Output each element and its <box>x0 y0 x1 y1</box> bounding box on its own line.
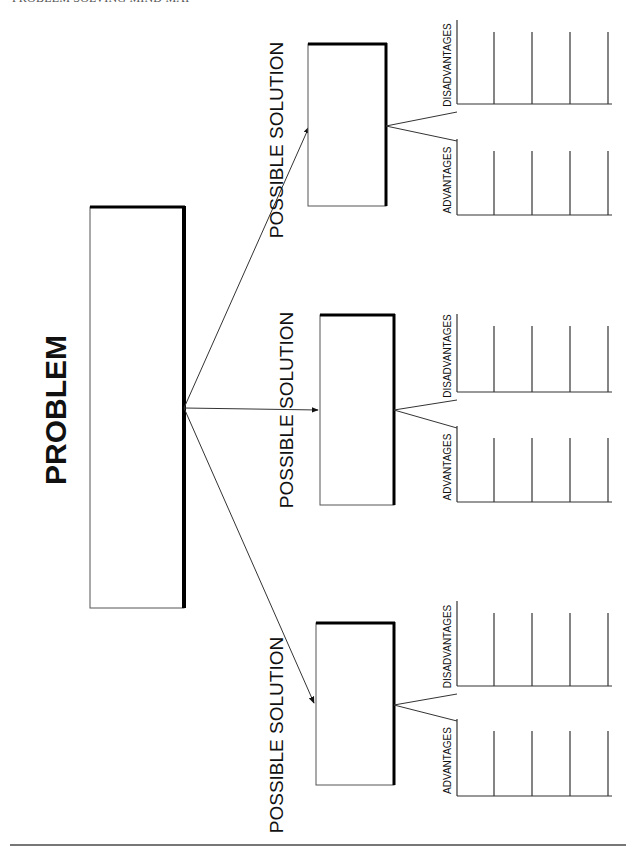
advantages-section: ADVANTAGES <box>442 139 612 215</box>
mind-map: PROBLEM POSSIBLE SOLUTIONDISADVANTAGESAD… <box>0 0 640 849</box>
solution-box-outline <box>308 44 386 206</box>
branch-line-disadvantages <box>394 400 457 410</box>
disadvantages-section: DISADVANTAGES <box>442 314 612 398</box>
branch-line-advantages <box>394 705 457 721</box>
solution-box[interactable] <box>320 314 395 505</box>
problem-label: PROBLEM <box>39 335 72 485</box>
advantages-section: ADVANTAGES <box>442 719 612 796</box>
advantages-label: ADVANTAGES <box>442 727 453 794</box>
advantages-section: ADVANTAGES <box>442 426 612 502</box>
disadvantages-label: DISADVANTAGES <box>442 314 453 398</box>
solution-box-outline <box>316 623 394 785</box>
disadvantages-section: DISADVANTAGES <box>442 601 612 688</box>
branch-line-disadvantages <box>386 112 457 126</box>
advantages-label: ADVANTAGES <box>442 146 453 213</box>
solution-box[interactable] <box>316 622 395 785</box>
branch-line-advantages <box>386 126 457 141</box>
problem-box[interactable] <box>90 206 185 608</box>
solution-box-outline <box>320 315 394 505</box>
solution-cluster-1: POSSIBLE SOLUTIONDISADVANTAGESADVANTAGES <box>266 20 612 238</box>
advantages-label: ADVANTAGES <box>442 433 453 500</box>
disadvantages-label: DISADVANTAGES <box>442 604 453 688</box>
arrow-to-solution-2 <box>184 408 318 410</box>
solution-cluster-2: POSSIBLE SOLUTIONDISADVANTAGESADVANTAGES <box>276 312 612 508</box>
disadvantages-section: DISADVANTAGES <box>442 20 612 107</box>
possible-solution-label: POSSIBLE SOLUTION <box>266 42 287 238</box>
possible-solution-label: POSSIBLE SOLUTION <box>276 312 297 508</box>
branch-line-disadvantages <box>394 694 457 705</box>
branch-line-advantages <box>394 410 457 428</box>
possible-solution-label: POSSIBLE SOLUTION <box>266 637 287 833</box>
solution-cluster-3: POSSIBLE SOLUTIONDISADVANTAGESADVANTAGES <box>266 601 612 833</box>
disadvantages-label: DISADVANTAGES <box>442 23 453 107</box>
solution-box[interactable] <box>308 43 387 206</box>
